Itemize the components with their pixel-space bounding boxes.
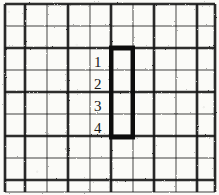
cell-label-4: 4 (94, 121, 102, 136)
grid-lines (0, 0, 219, 195)
cell-label-1: 1 (94, 55, 102, 70)
cell-label-2: 2 (94, 77, 102, 92)
grid-figure: 1 2 3 4 (0, 0, 219, 195)
cell-label-3: 3 (94, 99, 102, 114)
